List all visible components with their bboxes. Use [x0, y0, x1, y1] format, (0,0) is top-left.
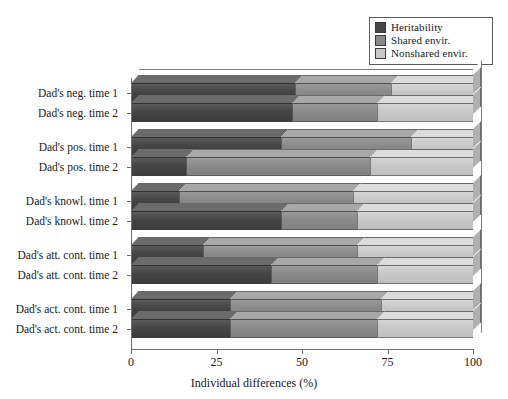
x-axis-tick [473, 350, 474, 354]
bar-segment-nonshared-envir[interactable] [377, 103, 473, 122]
y-axis-line [131, 78, 132, 350]
bar-segment-top [131, 291, 238, 299]
bar-segment-top [131, 149, 193, 157]
bar-segment-top [186, 149, 378, 157]
y-axis-tick [127, 201, 131, 202]
plot-area [131, 78, 473, 350]
chart-figure: Heritability Shared envir. Nonshared env… [0, 0, 508, 399]
bar-segment-top [292, 95, 385, 103]
bar-front-face [131, 211, 473, 230]
bar-segment-top [381, 291, 481, 299]
bar-segment-top [377, 311, 480, 319]
y-axis-label: Dad's knowl. time 1 [26, 195, 118, 207]
legend-swatch-nonshared-envir [375, 48, 386, 59]
y-axis-tick [127, 275, 131, 276]
bar-segment-heritability[interactable] [131, 103, 292, 122]
legend-item-shared-envir: Shared envir. [375, 34, 487, 47]
bar-segment-top [179, 183, 361, 191]
bar-segment-top [131, 311, 238, 319]
bar-segment-top [281, 203, 364, 211]
y-axis-label: Dad's att. cont. time 2 [18, 269, 118, 281]
x-axis-tick-label: 25 [211, 355, 223, 369]
y-axis-tick [127, 147, 131, 148]
y-axis-tick [127, 255, 131, 256]
x-axis-tick-label: 50 [296, 355, 308, 369]
bar-segment-top [391, 75, 481, 83]
bar-row [131, 157, 473, 176]
x-axis-tick [217, 350, 218, 354]
bar-front-face [131, 319, 473, 338]
bar-segment-heritability[interactable] [131, 265, 271, 284]
y-axis-tick [127, 113, 131, 114]
bar-top-face [131, 95, 481, 103]
y-axis-label: Dad's act. cont. time 1 [16, 303, 118, 315]
bar-segment-shared-envir[interactable] [186, 157, 371, 176]
x-axis-tick [131, 350, 132, 354]
bar-segment-top [377, 257, 480, 265]
bar-segment-top [131, 203, 289, 211]
bar-segment-top [131, 237, 211, 245]
bar-segment-top [203, 237, 365, 245]
bar-top-face [131, 149, 481, 157]
x-axis-tick [388, 350, 389, 354]
x-axis-tick-label: 100 [464, 355, 482, 369]
bar-segment-shared-envir[interactable] [230, 319, 377, 338]
bar-segment-nonshared-envir[interactable] [357, 211, 473, 230]
bar-row [131, 265, 473, 284]
bar-top-face [131, 203, 481, 211]
bar-segment-heritability[interactable] [131, 211, 281, 230]
bar-segment-top [357, 237, 481, 245]
bar-segment-top [271, 257, 385, 265]
x-axis-tick-label: 0 [128, 355, 134, 369]
legend-label-shared-envir: Shared envir. [391, 34, 450, 47]
bar-segment-top [411, 129, 480, 137]
bar-top-face [131, 75, 481, 83]
bar-segment-top [377, 95, 480, 103]
legend-item-heritability: Heritability [375, 21, 487, 34]
bar-segment-top [357, 203, 481, 211]
y-axis-tick [127, 329, 131, 330]
bar-segment-top [295, 75, 398, 83]
x-axis-tick [302, 350, 303, 354]
y-axis-label: Dad's att. cont. time 1 [18, 249, 118, 261]
bar-segment-top [230, 311, 385, 319]
bar-segment-heritability[interactable] [131, 319, 230, 338]
bar-segment-shared-envir[interactable] [281, 211, 356, 230]
legend-swatch-heritability [375, 22, 386, 33]
y-axis-label: Dad's knowl. time 2 [26, 215, 118, 227]
bar-row [131, 103, 473, 122]
bar-segment-top [353, 183, 480, 191]
legend-swatch-shared-envir [375, 35, 386, 46]
y-axis-label: Dad's neg. time 2 [38, 107, 118, 119]
y-axis-tick [127, 167, 131, 168]
bar-segment-nonshared-envir[interactable] [377, 319, 473, 338]
bar-row [131, 211, 473, 230]
bar-segment-nonshared-envir[interactable] [370, 157, 473, 176]
x-axis-title: Individual differences (%) [0, 376, 508, 391]
bar-front-face [131, 157, 473, 176]
bar-top-face [131, 291, 481, 299]
bar-segment-nonshared-envir[interactable] [377, 265, 473, 284]
bar-segment-top [370, 149, 480, 157]
bar-segment-heritability[interactable] [131, 157, 186, 176]
bar-segment-shared-envir[interactable] [271, 265, 377, 284]
bar-segment-top [131, 129, 289, 137]
bar-segment-shared-envir[interactable] [292, 103, 378, 122]
y-axis-tick [127, 309, 131, 310]
bar-segment-top [131, 75, 303, 83]
chart-legend: Heritability Shared envir. Nonshared env… [369, 17, 493, 65]
bar-front-face [131, 265, 473, 284]
y-axis-label: Dad's pos. time 2 [39, 161, 118, 173]
y-axis-labels: Dad's neg. time 1Dad's neg. time 2Dad's … [0, 78, 126, 350]
bar-top-face [131, 257, 481, 265]
bar-segment-top [131, 257, 279, 265]
bar-row [131, 319, 473, 338]
bar-segment-top [281, 129, 419, 137]
y-axis-tick [127, 93, 131, 94]
y-axis-tick [127, 221, 131, 222]
bar-top-face [131, 311, 481, 319]
bar-top-face [131, 129, 481, 137]
legend-label-heritability: Heritability [391, 21, 443, 34]
legend-item-nonshared-envir: Nonshared envir. [375, 47, 487, 60]
bar-front-face [131, 103, 473, 122]
